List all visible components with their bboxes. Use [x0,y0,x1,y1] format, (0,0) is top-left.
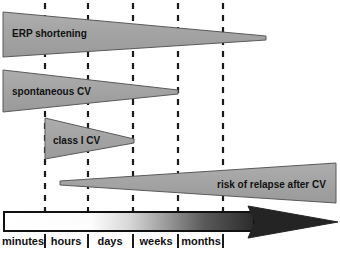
time-arrowhead-icon [248,206,338,238]
axis-label-hours: hours [51,235,82,247]
diagram-canvas: ERP shortening spontaneous CV class I CV… [0,0,340,255]
wedge-erp-shortening: ERP shortening [3,12,266,57]
wedge-class-i-cv: class I CV [45,118,134,159]
wedge-risk-of-relapse: risk of relapse after CV [60,163,336,203]
time-axis-arrow [4,206,338,238]
axis-label-days: days [97,235,122,247]
axis-labels: minutes hours days weeks months [2,235,221,247]
wedge-erp-shortening-label: ERP shortening [12,28,87,39]
wedge-spontaneous-cv: spontaneous CV [3,70,178,112]
wedge-spontaneous-cv-label: spontaneous CV [12,86,91,97]
wedge-class-i-cv-label: class I CV [53,135,101,146]
timeline-diagram: ERP shortening spontaneous CV class I CV… [0,0,340,255]
axis-label-minutes: minutes [2,235,44,247]
axis-label-weeks: weeks [138,235,172,247]
time-gradient-bar [4,212,254,231]
wedge-risk-of-relapse-label: risk of relapse after CV [217,179,326,190]
axis-label-months: months [181,235,221,247]
